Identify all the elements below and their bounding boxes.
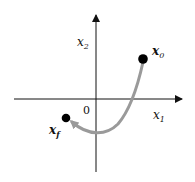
x0-label: x0 bbox=[151, 44, 164, 60]
start-point-x0 bbox=[138, 54, 148, 64]
trajectory-curve bbox=[72, 62, 143, 133]
x2-axis-label: x2 bbox=[77, 35, 89, 51]
origin-label: 0 bbox=[83, 104, 90, 117]
xf-label: xf bbox=[48, 123, 61, 139]
end-point-xf bbox=[62, 114, 71, 123]
x1-axis-label: x1 bbox=[153, 108, 165, 124]
phase-plane-diagram: x2 x0 0 x1 xf bbox=[0, 0, 195, 182]
